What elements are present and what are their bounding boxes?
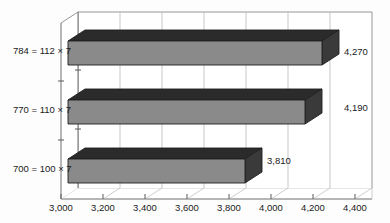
x-tick-label-1: 3,200 bbox=[91, 202, 115, 213]
bar-front-face bbox=[68, 41, 322, 65]
bar-top-face bbox=[68, 148, 262, 159]
bar-group-mid[interactable] bbox=[68, 89, 322, 124]
bar-top-face bbox=[68, 89, 322, 100]
bar-front-face bbox=[68, 159, 245, 183]
data-label-mid: 4,190 bbox=[344, 102, 368, 113]
x-tick-label-4: 3,800 bbox=[217, 202, 241, 213]
data-label-bottom: 3,810 bbox=[267, 155, 291, 166]
chart-container: 784 = 112 × 7 770 = 110 × 7 700 = 100 × … bbox=[0, 0, 390, 223]
bar-top-face bbox=[68, 30, 339, 41]
x-tick-label-5: 4,000 bbox=[259, 202, 283, 213]
x-tick-label-2: 3,400 bbox=[133, 202, 157, 213]
bar-chart-3d: 784 = 112 × 7 770 = 110 × 7 700 = 100 × … bbox=[0, 0, 390, 223]
data-label-top: 4,270 bbox=[344, 46, 368, 57]
x-tick-label-3: 3,600 bbox=[175, 202, 199, 213]
x-tick-label-6: 4,200 bbox=[301, 202, 325, 213]
x-tick-label-7: 4,400 bbox=[343, 202, 367, 213]
plot-floor bbox=[61, 188, 372, 199]
bar-front-face bbox=[68, 100, 305, 124]
x-tick-label-0: 3,000 bbox=[49, 202, 73, 213]
category-label-bottom: 700 = 100 × 7 bbox=[13, 163, 72, 174]
bar-group-bottom[interactable] bbox=[68, 148, 262, 183]
category-label-top: 784 = 112 × 7 bbox=[13, 45, 71, 56]
category-label-mid: 770 = 110 × 7 bbox=[13, 104, 71, 115]
bar-group-top[interactable] bbox=[68, 30, 339, 65]
